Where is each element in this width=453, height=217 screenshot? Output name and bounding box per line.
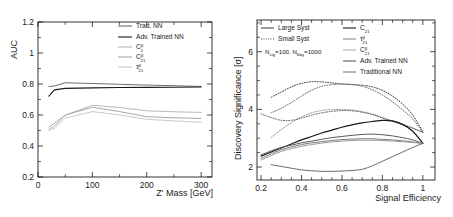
auc-y-axis-title: AUC xyxy=(9,40,19,60)
auc-y-tick-label: 0.4 xyxy=(22,141,34,151)
significance-series-7 xyxy=(261,140,423,160)
auc-y-tick-label: 1 xyxy=(29,48,34,58)
auc-legend-label-0: Trad. NN xyxy=(136,22,163,29)
significance-legend: Large SystSmall SystNsig=100, Nbkg=1000C… xyxy=(261,24,408,75)
auc-x-tick-label: 200 xyxy=(140,180,154,190)
significance-legend-syst-label-1: Small Syst xyxy=(278,35,309,43)
auc-plot-frame xyxy=(38,22,212,177)
auc-legend: Trad. NNAdv. Trained NNCβ2Cβ21τβ21 xyxy=(118,22,184,72)
auc-series-2 xyxy=(49,105,201,129)
figure-container: 0.20.40.60.811.20100200300 Trad. NNAdv. … xyxy=(0,0,453,217)
auc-x-axis-title: Z' Mass [GeV] xyxy=(156,188,213,198)
auc-y-tick-label: 0.8 xyxy=(22,79,34,89)
significance-axes: 2460.20.40.60.81 xyxy=(248,20,435,193)
significance-y-tick-label: 4 xyxy=(248,104,253,114)
auc-legend-label-1: Adv. Trained NN xyxy=(136,33,184,40)
auc-curves xyxy=(49,83,201,131)
chart-auc-vs-mass: 0.20.40.60.811.20100200300 Trad. NNAdv. … xyxy=(0,0,227,217)
significance-plot-svg: 2460.20.40.60.81 Large SystSmall SystNsi… xyxy=(227,0,453,217)
auc-axes: 0.20.40.60.811.20100200300 xyxy=(22,17,212,190)
significance-y-tick-label: 6 xyxy=(248,47,253,57)
auc-x-tick-label: 0 xyxy=(36,180,41,190)
auc-series-1 xyxy=(49,87,201,96)
significance-legend-syst-label-0: Large Syst xyxy=(278,24,310,32)
auc-legend-label-2: Cβ2 xyxy=(136,43,144,53)
significance-x-tick-label: 1 xyxy=(420,183,425,193)
significance-series-5 xyxy=(261,134,423,155)
significance-y-axis-title: Discovery Significance [σ] xyxy=(233,56,243,160)
significance-plot-frame xyxy=(257,20,435,180)
auc-plot-svg: 0.20.40.60.811.20100200300 Trad. NNAdv. … xyxy=(0,0,227,217)
auc-series-0 xyxy=(49,83,201,87)
significance-legend-label-4: Traditional NN xyxy=(360,68,402,75)
significance-x-tick-label: 0.2 xyxy=(255,183,267,193)
significance-series-1 xyxy=(271,84,423,132)
significance-legend-label-3: Adv. Trained NN xyxy=(360,57,408,64)
significance-y-tick-label: 2 xyxy=(248,162,253,172)
significance-legend-label-1: τβ21 xyxy=(360,35,368,45)
significance-curves xyxy=(261,82,423,172)
significance-series-3 xyxy=(261,110,423,132)
significance-legend-label-0: C21 xyxy=(360,24,370,33)
significance-x-tick-label: 0.4 xyxy=(296,183,308,193)
auc-legend-label-3: Cβ21 xyxy=(136,53,146,63)
auc-y-tick-label: 0.6 xyxy=(22,110,34,120)
auc-y-tick-label: 0.2 xyxy=(22,172,34,182)
significance-x-axis-title: Signal Efficiency xyxy=(375,193,441,203)
chart-significance-vs-efficiency: 2460.20.40.60.81 Large SystSmall SystNsi… xyxy=(227,0,453,217)
auc-y-tick-label: 1.2 xyxy=(22,17,34,27)
auc-series-4 xyxy=(49,112,201,131)
significance-legend-label-2: Cβ21 xyxy=(360,46,370,56)
auc-x-tick-label: 100 xyxy=(85,180,99,190)
auc-series-3 xyxy=(49,107,201,127)
significance-x-tick-label: 0.6 xyxy=(336,183,348,193)
significance-legend-annotation: Nsig=100, Nbkg=1000 xyxy=(265,48,322,57)
auc-legend-label-4: τβ21 xyxy=(136,63,144,73)
significance-x-tick-label: 0.8 xyxy=(376,183,388,193)
